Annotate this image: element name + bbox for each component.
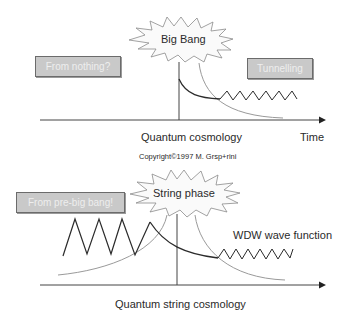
diagram-canvas (0, 0, 342, 322)
big-bang-label: Big Bang (161, 33, 206, 45)
bottom-right-zigzag-wave (218, 249, 293, 259)
wdw-wave-function-label: WDW wave function (233, 229, 332, 241)
quantum-cosmology-caption: Quantum cosmology (141, 131, 242, 143)
tunnelling-box: Tunnelling (247, 58, 313, 79)
top-zigzag-wave (220, 91, 297, 100)
top-axis-arrow-icon (319, 117, 326, 124)
bottom-right-light-curve (195, 215, 285, 280)
time-axis-label: Time (300, 131, 324, 143)
copyright-text: Copyright©1997 M. Grsp+rini (139, 152, 236, 161)
bottom-axis-arrow-icon (319, 282, 326, 289)
bottom-dark-curve (150, 222, 218, 258)
from-nothing-box: From nothing? (35, 56, 121, 77)
from-pre-big-bang-box: From pre-big bang! (16, 192, 125, 213)
bottom-left-zigzag-wave (63, 219, 150, 256)
string-phase-label: String phase (153, 187, 215, 199)
quantum-string-cosmology-caption: Quantum string cosmology (115, 298, 246, 310)
